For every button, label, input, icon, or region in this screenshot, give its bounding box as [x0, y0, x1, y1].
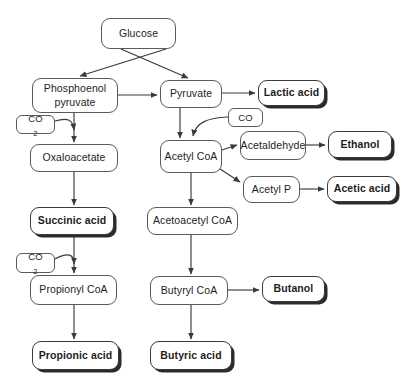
node-butyryl-coa[interactable]: Butyryl CoA	[150, 276, 228, 305]
node-butanol[interactable]: Butanol	[262, 276, 325, 302]
node-phosphoenol-pyruvate[interactable]: Phosphoenol pyruvate	[32, 78, 118, 113]
edge-glucose-to-pep	[80, 49, 166, 76]
node-acetyl-coa-label: Acetyl CoA	[162, 150, 221, 163]
node-co-label: CO	[235, 112, 255, 124]
node-pep-line1: Phosphoenol	[41, 82, 109, 95]
node-butyric-acid-label: Butyric acid	[157, 349, 224, 362]
node-ethanol-label: Ethanol	[337, 138, 382, 151]
node-acetoacetyl-coa-label: Acetoacetyl CoA	[150, 214, 235, 227]
co2-top-subscript: 2	[33, 129, 37, 138]
node-butyryl-coa-label: Butyryl CoA	[158, 284, 221, 297]
co2-bottom-text: CO	[25, 251, 45, 263]
pathway-diagram: Glucose Phosphoenol pyruvate Pyruvate La…	[0, 0, 408, 381]
node-acetic-acid-label: Acetic acid	[331, 182, 394, 195]
node-acetic-acid[interactable]: Acetic acid	[327, 176, 397, 202]
node-acetyl-p-label: Acetyl P	[249, 183, 294, 196]
edge-glucose-to-pyruvate	[121, 49, 188, 78]
node-co2-top[interactable]: CO2	[16, 115, 55, 134]
node-co[interactable]: CO	[228, 108, 263, 127]
co2-top-text: CO	[25, 113, 45, 125]
edge-co2-bottom-to-propionyl-coa	[55, 255, 74, 264]
node-pyruvate[interactable]: Pyruvate	[160, 80, 222, 108]
node-co2-bottom[interactable]: CO2	[16, 253, 55, 273]
edge-co2-top-to-oxaloacetate	[55, 119, 74, 130]
node-propionyl-coa-label: Propionyl CoA	[36, 283, 110, 296]
node-phosphoenol-pyruvate-label: Phosphoenol pyruvate	[38, 82, 112, 108]
node-propionyl-coa[interactable]: Propionyl CoA	[30, 275, 117, 305]
node-propionic-acid[interactable]: Propionic acid	[32, 341, 119, 370]
node-co2-top-label: CO2	[22, 113, 48, 137]
node-glucose-label: Glucose	[116, 27, 161, 40]
edge-co-to-acetyl-coa	[193, 117, 228, 136]
node-co2-bottom-label: CO2	[22, 251, 48, 275]
edge-acetyl-coa-to-acetyl-p	[217, 167, 240, 182]
node-oxaloacetate[interactable]: Oxaloacetate	[30, 144, 118, 172]
node-acetaldehyde[interactable]: Acetaldehyde	[240, 131, 306, 160]
node-succinic-acid-label: Succinic acid	[35, 214, 109, 227]
node-acetyl-p[interactable]: Acetyl P	[243, 176, 300, 203]
node-butanol-label: Butanol	[271, 282, 317, 295]
node-lactic-acid-label: Lactic acid	[261, 86, 322, 99]
node-glucose[interactable]: Glucose	[101, 18, 176, 49]
node-propionic-acid-label: Propionic acid	[36, 349, 116, 362]
node-acetaldehyde-label: Acetaldehyde	[238, 139, 309, 152]
node-oxaloacetate-label: Oxaloacetate	[39, 151, 108, 164]
node-acetoacetyl-coa[interactable]: Acetoacetyl CoA	[147, 207, 238, 235]
node-succinic-acid[interactable]: Succinic acid	[30, 207, 114, 235]
node-pyruvate-label: Pyruvate	[167, 87, 215, 100]
node-acetyl-coa[interactable]: Acetyl CoA	[160, 140, 222, 173]
node-lactic-acid[interactable]: Lactic acid	[258, 80, 325, 106]
node-ethanol[interactable]: Ethanol	[328, 131, 392, 158]
node-pep-line2: pyruvate	[41, 96, 109, 109]
node-butyric-acid[interactable]: Butyric acid	[150, 341, 232, 370]
